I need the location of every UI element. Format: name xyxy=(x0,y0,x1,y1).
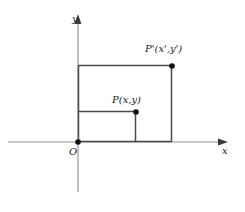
coordinate-geometry-figure: y x O P(x,y) P'(x',y') xyxy=(0,0,245,212)
inner-rectangle-group xyxy=(78,112,136,143)
origin-point-marker xyxy=(75,139,81,145)
point-P-prime-marker xyxy=(169,63,175,69)
diagram-canvas xyxy=(0,0,245,212)
point-P-label: P(x,y) xyxy=(112,95,141,105)
y-axis-label: y xyxy=(72,14,78,24)
x-axis-label: x xyxy=(222,146,228,156)
origin-label: O xyxy=(69,147,77,157)
point-P-marker xyxy=(133,109,139,115)
point-P-prime-label: P'(x',y') xyxy=(145,44,182,54)
